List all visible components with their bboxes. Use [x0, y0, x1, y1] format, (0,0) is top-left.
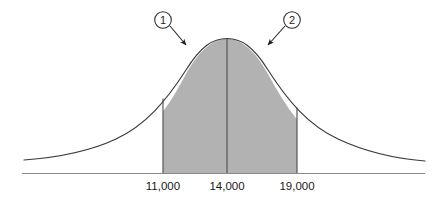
x-tick-label-14000: 14,000: [209, 180, 244, 192]
annotation-number-1: 1: [160, 14, 166, 26]
shaded-area-under-curve: [24, 39, 425, 173]
annotation-marker-1: 1: [155, 12, 186, 45]
shaded-area-group: [24, 39, 425, 173]
distribution-chart-svg: 11,000 14,000 19,000 1 2: [0, 0, 435, 204]
x-tick-label-11000: 11,000: [146, 180, 180, 192]
annotation-leader-line-2: [268, 26, 285, 45]
annotation-marker-2: 2: [268, 12, 300, 45]
annotation-number-2: 2: [289, 14, 295, 26]
annotation-leader-line-1: [170, 26, 186, 45]
x-tick-label-19000: 19,000: [279, 180, 314, 192]
normal-distribution-figure: 11,000 14,000 19,000 1 2: [0, 0, 435, 204]
